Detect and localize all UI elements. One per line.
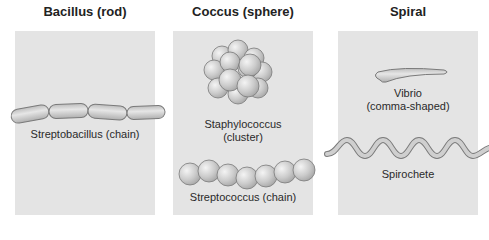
streptobacillus-illustration: [10, 103, 165, 124]
label-streptobacillus: Streptobacillus (chain): [15, 128, 155, 141]
label-staphylococcus: Staphylococcus (cluster): [173, 118, 313, 144]
label-vibrio-line2: (comma-shaped): [338, 100, 478, 113]
label-spirochete: Spirochete: [338, 168, 478, 181]
streptococcus-illustration: [179, 159, 315, 189]
label-staphylococcus-line2: (cluster): [173, 131, 313, 144]
label-streptococcus: Streptococcus (chain): [173, 191, 313, 204]
staphylococcus-illustration: [204, 40, 272, 104]
vibrio-illustration: [375, 68, 447, 82]
label-staphylococcus-line1: Staphylococcus: [173, 118, 313, 131]
label-vibrio-line1: Vibrio: [338, 87, 478, 100]
label-vibrio: Vibrio (comma-shaped): [338, 87, 478, 113]
